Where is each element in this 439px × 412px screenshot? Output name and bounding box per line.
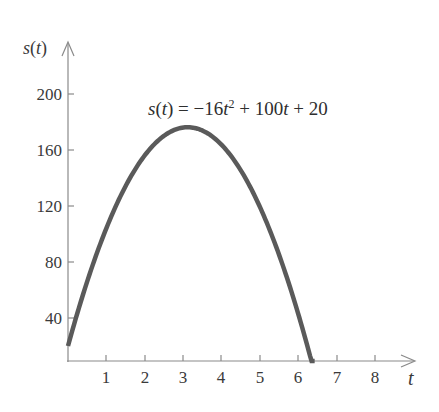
x-tick-label: 5 [250,369,270,386]
x-tick-label: 2 [135,369,155,386]
x-tick-label: 7 [327,369,347,386]
x-tick-label: 3 [173,369,193,386]
y-tick-label: 40 [22,310,62,327]
x-tick-label: 4 [211,369,231,386]
y-ticks [68,94,74,318]
x-axis-label: t [408,368,414,388]
y-axis-label: s(t) [23,39,47,57]
y-tick-label: 80 [22,254,62,271]
y-tick-label: 200 [22,86,62,103]
x-ticks [106,355,375,361]
eq-rest1: + 100 [235,98,284,119]
y-tick-label: 160 [22,142,62,159]
eq-middle: = −16 [173,98,223,119]
y-axis-label-s: s [23,38,30,58]
parabola-curve [68,127,315,361]
equation-annotation: s(t) = −16t2 + 100t + 20 [148,97,328,120]
x-tick-label: 6 [288,369,308,386]
y-axis-label-close: ) [41,38,47,58]
x-tick-label: 1 [96,369,116,386]
eq-rest2: + 20 [289,98,328,119]
x-tick-label: 8 [365,369,385,386]
y-tick-label: 120 [22,198,62,215]
chart-canvas [0,0,439,412]
